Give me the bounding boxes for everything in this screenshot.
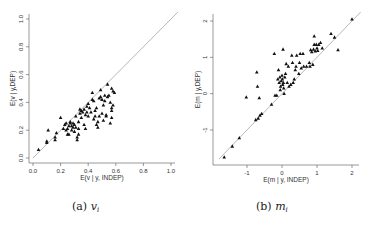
triangle-marker: [298, 61, 302, 64]
triangle-marker: [278, 88, 282, 91]
y-tick-label: 0.6: [18, 70, 24, 79]
triangle-marker: [102, 103, 106, 106]
triangle-marker: [95, 106, 99, 109]
triangle-marker: [89, 110, 93, 113]
triangle-marker: [298, 52, 302, 55]
y-tick-label: 0.0: [18, 153, 24, 162]
triangle-marker: [283, 75, 287, 78]
caption-a-sub: i: [97, 206, 99, 214]
triangle-marker: [301, 52, 305, 55]
x-tick-label: 2: [350, 170, 354, 176]
triangle-marker: [282, 92, 286, 95]
triangle-marker: [37, 148, 41, 151]
scatter-panel-b: -1012-1012E(m | y, INDEP)E(m | y,DEP): [194, 12, 361, 184]
triangle-marker: [285, 81, 289, 84]
triangle-marker: [336, 48, 340, 51]
triangle-marker: [93, 114, 97, 117]
triangle-marker: [46, 128, 50, 131]
x-tick-label: 1: [315, 170, 319, 176]
y-tick-label: 0: [202, 91, 208, 95]
data-points: [37, 82, 117, 151]
triangle-marker: [273, 52, 277, 55]
triangle-marker: [291, 61, 295, 64]
triangle-marker: [108, 121, 112, 124]
x-axis-label: E(m | y, INDEP): [263, 176, 309, 184]
figure: 0.00.20.40.60.81.00.00.20.40.60.81.0E(v …: [0, 0, 374, 228]
triangle-marker: [320, 46, 324, 49]
scatter-panel-a: 0.00.20.40.60.81.00.00.20.40.60.81.0E(v …: [9, 12, 178, 182]
triangle-marker: [329, 32, 333, 35]
y-tick-label: 0.2: [18, 125, 24, 134]
triangle-marker: [108, 100, 112, 103]
caption-b: (b) mi: [256, 200, 288, 214]
triangle-marker: [305, 64, 309, 67]
caption-a-prefix: (a): [72, 200, 87, 213]
triangle-marker: [291, 81, 295, 84]
y-axis-label: E(m | y,DEP): [194, 71, 202, 108]
triangle-marker: [277, 68, 281, 71]
caption-a: (a) vi: [72, 200, 99, 214]
triangle-marker: [55, 131, 59, 134]
triangle-marker: [103, 93, 107, 96]
triangle-marker: [294, 68, 298, 71]
data-points: [222, 17, 353, 158]
triangle-marker: [256, 84, 260, 87]
triangle-marker: [222, 155, 226, 158]
y-tick-label: 0.8: [18, 42, 24, 51]
triangle-marker: [319, 41, 323, 44]
triangle-marker: [102, 118, 106, 121]
triangle-marker: [245, 95, 249, 98]
triangle-marker: [257, 96, 261, 99]
triangle-marker: [284, 72, 288, 75]
triangle-marker: [82, 123, 86, 126]
triangle-marker: [77, 120, 81, 123]
triangle-marker: [100, 112, 104, 115]
triangle-marker: [255, 70, 259, 73]
triangle-marker: [110, 116, 114, 119]
y-axis-label: E(v | y,DEP): [9, 71, 17, 106]
triangle-marker: [281, 47, 285, 50]
x-tick-label: 0.8: [139, 168, 148, 174]
triangle-marker: [91, 91, 95, 94]
x-axis-label: E(v | y, INDEP): [80, 174, 123, 182]
triangle-marker: [333, 35, 337, 38]
triangle-marker: [290, 54, 294, 57]
triangle-marker: [231, 144, 235, 147]
triangle-marker: [280, 74, 284, 77]
y-tick-label: -1: [202, 127, 208, 133]
triangle-marker: [104, 113, 108, 116]
triangle-marker: [350, 17, 354, 20]
x-tick-label: 1.0: [167, 168, 176, 174]
triangle-marker: [297, 72, 301, 75]
triangle-marker: [59, 116, 63, 119]
caption-b-sub: i: [286, 206, 288, 214]
triangle-marker: [84, 127, 88, 130]
x-tick-label: 0.0: [29, 168, 38, 174]
x-tick-label: 0.2: [56, 168, 65, 174]
caption-b-prefix: (b): [256, 200, 272, 213]
triangle-marker: [308, 61, 312, 64]
caption-b-var: m: [275, 200, 285, 213]
triangle-marker: [110, 87, 114, 90]
y-tick-label: 1.0: [18, 14, 24, 23]
triangle-marker: [282, 86, 286, 89]
y-tick-label: 1: [202, 55, 208, 59]
triangle-marker: [292, 77, 296, 80]
x-tick-label: -1: [244, 170, 250, 176]
y-tick-label: 2: [202, 19, 208, 23]
triangle-marker: [77, 132, 81, 135]
triangle-marker: [295, 54, 299, 57]
y-tick-label: 0.4: [18, 98, 24, 107]
triangle-marker: [294, 64, 298, 67]
triangle-marker: [284, 62, 288, 65]
triangle-marker: [315, 46, 319, 49]
triangle-marker: [312, 34, 316, 37]
triangle-marker: [80, 116, 84, 119]
triangle-marker: [302, 64, 306, 67]
triangle-marker: [96, 120, 100, 123]
